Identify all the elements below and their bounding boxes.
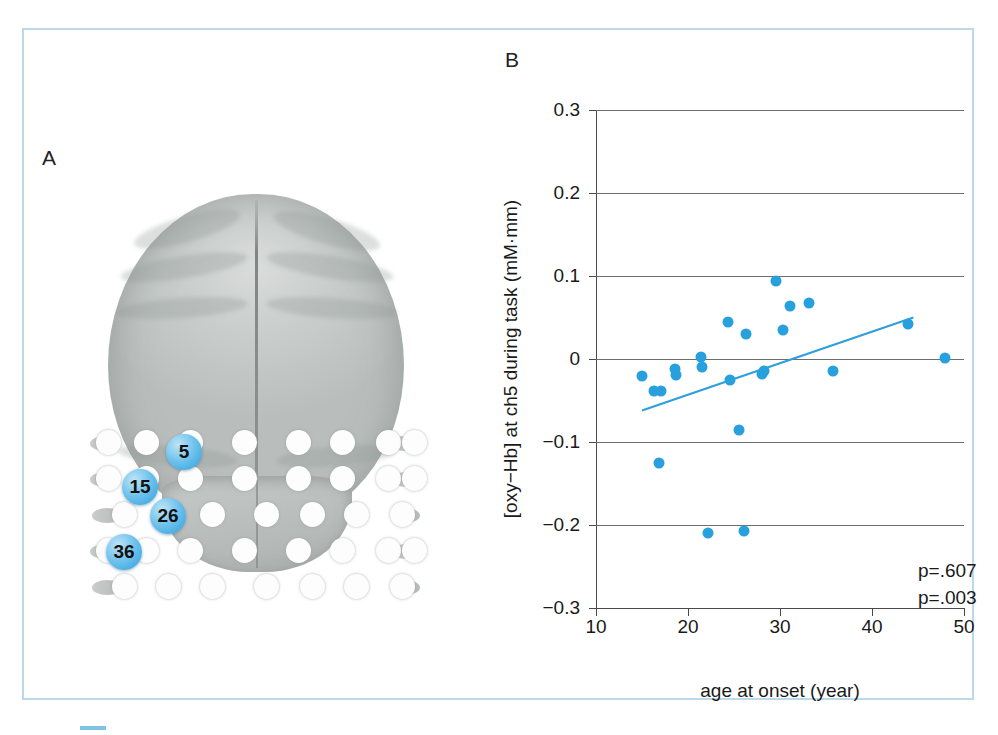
x-tick-label: 30 xyxy=(769,616,790,638)
optode xyxy=(376,538,401,563)
optode xyxy=(232,430,257,455)
channel-marker-15: 15 xyxy=(122,469,158,505)
x-tick xyxy=(596,608,597,616)
scatter-point xyxy=(739,525,750,536)
plot-area: p=.607 p=.003 0.30.20.10−0.1−0.2−0.31020… xyxy=(596,110,964,608)
optode xyxy=(330,538,355,563)
scatter-point xyxy=(703,528,714,539)
y-tick xyxy=(589,608,596,609)
optode xyxy=(232,538,257,563)
y-tick-label: 0.3 xyxy=(554,99,580,121)
annotation-p-value-1: p=.607 xyxy=(918,560,977,582)
y-tick xyxy=(589,276,596,277)
annotation-p-value-2: p=.003 xyxy=(918,587,977,609)
optode xyxy=(390,502,415,527)
optode xyxy=(330,466,355,491)
x-axis-title: age at onset (year) xyxy=(596,680,964,702)
panel-b-scatter-plot: [oxy−Hb] at ch5 during task (mM·mm) p=.6… xyxy=(480,40,980,700)
y-tick xyxy=(589,193,596,194)
scatter-point xyxy=(696,362,707,373)
optode xyxy=(134,430,159,455)
channel-marker-26: 26 xyxy=(150,498,186,534)
head-model-image: 5152636 xyxy=(90,194,420,584)
optode xyxy=(330,430,355,455)
optode xyxy=(112,574,137,599)
scatter-point xyxy=(653,457,664,468)
optode xyxy=(232,466,257,491)
y-tick xyxy=(589,110,596,111)
x-tick-label: 40 xyxy=(861,616,882,638)
scatter-point xyxy=(939,353,950,364)
y-axis-title: [oxy−Hb] at ch5 during task (mM·mm) xyxy=(498,110,524,608)
optode xyxy=(112,502,137,527)
x-tick xyxy=(780,608,781,616)
y-tick-label: −0.2 xyxy=(542,514,580,536)
x-tick-label: 10 xyxy=(585,616,606,638)
channel-marker-5: 5 xyxy=(166,434,202,470)
optode xyxy=(286,466,311,491)
optode xyxy=(96,466,121,491)
optode xyxy=(178,538,203,563)
optode xyxy=(96,430,121,455)
y-tick-label: 0 xyxy=(569,348,580,370)
scatter-point xyxy=(733,424,744,435)
optode xyxy=(376,430,401,455)
scatter-point xyxy=(671,369,682,380)
x-tick xyxy=(964,608,965,616)
optode xyxy=(344,574,369,599)
panel-a-head-model: 5152636 xyxy=(52,178,452,598)
y-tick xyxy=(589,359,596,360)
optode xyxy=(402,430,427,455)
scatter-point xyxy=(828,365,839,376)
optode xyxy=(156,574,181,599)
optode xyxy=(286,538,311,563)
x-tick-label: 50 xyxy=(953,616,974,638)
optode xyxy=(300,574,325,599)
scatter-point xyxy=(725,374,736,385)
optode xyxy=(300,502,325,527)
x-tick xyxy=(688,608,689,616)
caption-strip xyxy=(22,722,974,735)
optode xyxy=(286,430,311,455)
scatter-point xyxy=(785,300,796,311)
scatter-point xyxy=(777,324,788,335)
scatter-point xyxy=(902,319,913,330)
y-tick-label: −0.3 xyxy=(542,597,580,619)
x-tick-label: 20 xyxy=(677,616,698,638)
optode xyxy=(390,574,415,599)
scatter-point xyxy=(740,329,751,340)
caption-marker xyxy=(80,726,106,730)
y-tick xyxy=(589,525,596,526)
optode xyxy=(200,574,225,599)
scatter-point xyxy=(637,370,648,381)
optode xyxy=(254,574,279,599)
optode xyxy=(254,502,279,527)
x-tick xyxy=(872,608,873,616)
regression-line xyxy=(596,110,964,608)
optode xyxy=(200,502,225,527)
y-tick-label: 0.2 xyxy=(554,182,580,204)
y-tick-label: 0.1 xyxy=(554,265,580,287)
scatter-point xyxy=(656,385,667,396)
optode xyxy=(402,466,427,491)
scatter-point xyxy=(804,297,815,308)
y-tick xyxy=(589,442,596,443)
y-axis-title-text: [oxy−Hb] at ch5 during task (mM·mm) xyxy=(500,200,522,518)
optode xyxy=(402,538,427,563)
scatter-point xyxy=(759,365,770,376)
channel-marker-36: 36 xyxy=(106,534,142,570)
y-tick-label: −0.1 xyxy=(542,431,580,453)
optode xyxy=(344,502,369,527)
scatter-point xyxy=(722,316,733,327)
panel-a-letter: A xyxy=(42,146,57,170)
scatter-point xyxy=(771,275,782,286)
scatter-point xyxy=(695,351,706,362)
optode xyxy=(376,466,401,491)
